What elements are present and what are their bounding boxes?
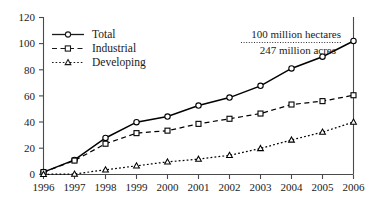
square-marker-icon bbox=[134, 131, 139, 136]
y-tick-label: 60 bbox=[24, 90, 36, 102]
legend-label-total: Total bbox=[92, 28, 115, 40]
y-tick-label: 20 bbox=[24, 142, 36, 154]
square-marker-icon bbox=[289, 102, 294, 107]
x-tick-label: 1996 bbox=[33, 181, 56, 193]
square-marker-icon bbox=[165, 128, 170, 133]
x-tick-label: 1998 bbox=[95, 181, 118, 193]
circle-marker-icon bbox=[65, 32, 70, 37]
x-tick-label: 1999 bbox=[126, 181, 149, 193]
square-marker-icon bbox=[320, 99, 325, 104]
annotation-acres-text: 247 million acres bbox=[260, 44, 336, 56]
square-marker-icon bbox=[65, 46, 70, 51]
y-tick-label: 100 bbox=[19, 37, 36, 49]
y-tick-label: 120 bbox=[19, 11, 36, 23]
x-tick-label: 2002 bbox=[219, 181, 241, 193]
line-chart: 020406080100120 199619971998199920002001… bbox=[0, 0, 371, 202]
circle-marker-icon bbox=[258, 83, 263, 88]
x-tick-label: 1997 bbox=[64, 181, 87, 193]
legend-label-developing: Developing bbox=[92, 56, 146, 69]
square-marker-icon bbox=[227, 116, 232, 121]
circle-marker-icon bbox=[134, 119, 139, 124]
circle-marker-icon bbox=[289, 66, 294, 71]
x-tick-label: 2004 bbox=[281, 181, 304, 193]
square-marker-icon bbox=[72, 158, 77, 163]
x-tick-label: 2000 bbox=[157, 181, 180, 193]
chart-canvas: 020406080100120 199619971998199920002001… bbox=[0, 0, 371, 202]
circle-marker-icon bbox=[103, 135, 108, 140]
x-tick-label: 2001 bbox=[188, 181, 210, 193]
x-tick-label: 2006 bbox=[343, 181, 366, 193]
x-tick-label: 2003 bbox=[250, 181, 273, 193]
y-tick-label: 0 bbox=[30, 168, 36, 180]
square-marker-icon bbox=[103, 141, 108, 146]
circle-marker-icon bbox=[351, 38, 356, 43]
square-marker-icon bbox=[258, 111, 263, 116]
x-tick-label: 2005 bbox=[312, 181, 335, 193]
annotation-hectares-text: 100 million hectares bbox=[251, 28, 341, 40]
circle-marker-icon bbox=[165, 114, 170, 119]
square-marker-icon bbox=[196, 121, 201, 126]
y-tick-label: 80 bbox=[24, 64, 36, 76]
circle-marker-icon bbox=[227, 95, 232, 100]
y-tick-label: 40 bbox=[24, 116, 36, 128]
legend-label-industrial: Industrial bbox=[92, 42, 136, 54]
circle-marker-icon bbox=[196, 103, 201, 108]
x-tick-labels: 1996199719981999200020012002200320042005… bbox=[33, 181, 366, 193]
square-marker-icon bbox=[351, 93, 356, 98]
